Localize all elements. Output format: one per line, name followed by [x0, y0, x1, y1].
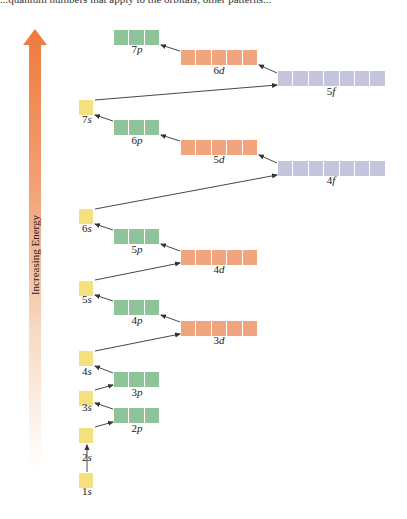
orbital-box	[243, 140, 257, 155]
orbital-label: 3d	[214, 334, 225, 346]
orbital-box	[278, 71, 292, 86]
orbital-label: 3s	[82, 401, 92, 413]
arrow-5p-to-6s	[95, 224, 113, 230]
orbital-label: 5d	[214, 153, 225, 165]
orbital-box	[196, 50, 210, 65]
orbital-5f	[278, 71, 385, 86]
orbital-box	[79, 428, 93, 443]
orbital-label: 5f	[327, 85, 336, 97]
orbital-6d	[181, 50, 257, 65]
orbital-box	[181, 250, 195, 265]
orbital-box	[196, 250, 210, 265]
orbital-label: 5s	[82, 293, 92, 305]
arrow-6s-to-4f	[95, 175, 277, 209]
orbital-box	[324, 71, 338, 86]
arrow-5s-to-4d	[95, 263, 180, 280]
orbital-label: 5p	[132, 243, 143, 255]
orbital-box	[212, 50, 226, 65]
orbital-box	[129, 372, 143, 387]
orbital-label: 1s	[82, 485, 92, 497]
orbital-box	[181, 140, 195, 155]
orbital-label: 6s	[82, 222, 92, 234]
orbital-label: 4p	[132, 314, 143, 326]
orbital-box	[309, 71, 323, 86]
orbital-box	[114, 229, 128, 244]
orbital-4p	[114, 300, 159, 315]
orbital-box	[79, 351, 93, 366]
orbital-box	[278, 161, 292, 176]
orbital-label: 2p	[132, 422, 143, 434]
arrow-6d-to-7p	[161, 45, 180, 51]
orbital-box	[370, 71, 384, 86]
orbital-label: 7s	[82, 113, 92, 125]
arrow-4f-to-5d	[259, 155, 277, 163]
orbital-5p	[114, 229, 159, 244]
orbital-box	[114, 408, 128, 423]
orbital-box	[114, 120, 128, 135]
arrow-3s-to-3p	[95, 385, 113, 390]
orbital-label: 2s	[82, 451, 92, 463]
orbital-label: 6d	[214, 64, 225, 76]
orbital-box	[129, 229, 143, 244]
orbital-box	[145, 229, 159, 244]
arrow-3d-to-4p	[161, 315, 180, 322]
arrow-2p-to-3s	[95, 403, 113, 409]
orbital-box	[227, 140, 241, 155]
orbital-box	[129, 408, 143, 423]
orbital-box	[227, 250, 241, 265]
orbital-label: 7p	[132, 43, 143, 55]
orbital-box	[145, 30, 159, 45]
orbital-6p	[114, 120, 159, 135]
orbital-box	[129, 300, 143, 315]
arrow-5f-to-6d	[259, 65, 277, 73]
orbital-box	[227, 50, 241, 65]
arrow-4s-to-3d	[95, 334, 180, 351]
orbital-box	[370, 161, 384, 176]
orbital-box	[181, 50, 195, 65]
orbital-box	[114, 300, 128, 315]
orbital-label: 4s	[82, 365, 92, 377]
orbital-label: 4d	[214, 263, 225, 275]
arrow-4d-to-5p	[161, 244, 180, 251]
orbital-box	[145, 408, 159, 423]
orbital-box	[340, 71, 354, 86]
orbital-box	[196, 321, 210, 336]
orbital-box	[129, 120, 143, 135]
arrow-4p-to-5s	[95, 295, 113, 301]
orbital-box	[309, 161, 323, 176]
orbital-2s	[79, 428, 93, 443]
arrow-2s-to-2p	[95, 422, 113, 427]
arrow-6p-to-7s	[95, 115, 113, 121]
orbital-box	[114, 30, 128, 45]
orbital-box	[145, 300, 159, 315]
orbital-box	[355, 71, 369, 86]
orbital-box	[196, 140, 210, 155]
orbital-box	[293, 161, 307, 176]
orbital-label: 4f	[327, 174, 336, 186]
orbital-box	[114, 372, 128, 387]
orbital-3p	[114, 372, 159, 387]
orbital-4s	[79, 351, 93, 366]
arrow-5d-to-6p	[161, 135, 180, 141]
orbital-box	[243, 321, 257, 336]
orbital-box	[181, 321, 195, 336]
orbital-box	[293, 71, 307, 86]
orbital-2p	[114, 408, 159, 423]
orbital-box	[145, 372, 159, 387]
orbital-label: 6p	[132, 134, 143, 146]
arrow-7s-to-5f	[95, 85, 277, 100]
orbital-box	[243, 50, 257, 65]
orbital-box	[340, 161, 354, 176]
arrow-3p-to-4s	[95, 366, 113, 373]
orbital-box	[145, 120, 159, 135]
orbital-box	[227, 321, 241, 336]
orbital-box	[243, 250, 257, 265]
orbital-label: 3p	[132, 386, 143, 398]
orbital-box	[355, 161, 369, 176]
